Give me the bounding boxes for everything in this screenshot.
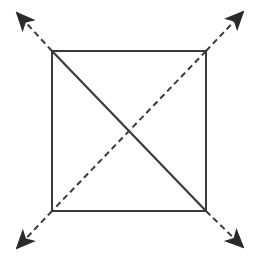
square-diagonals-diagram (0, 0, 258, 258)
arrow-bottom-right (206, 211, 243, 247)
arrow-top-left (17, 13, 52, 51)
arrow-top-right (206, 12, 243, 51)
arrow-bottom-left (17, 211, 52, 248)
